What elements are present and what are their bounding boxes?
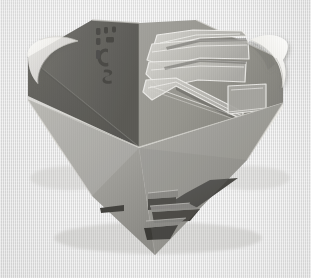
photo-canvas: Grayscale photograph of a folded cardsto… (0, 0, 311, 278)
kirigami-popup-artwork (0, 0, 311, 278)
